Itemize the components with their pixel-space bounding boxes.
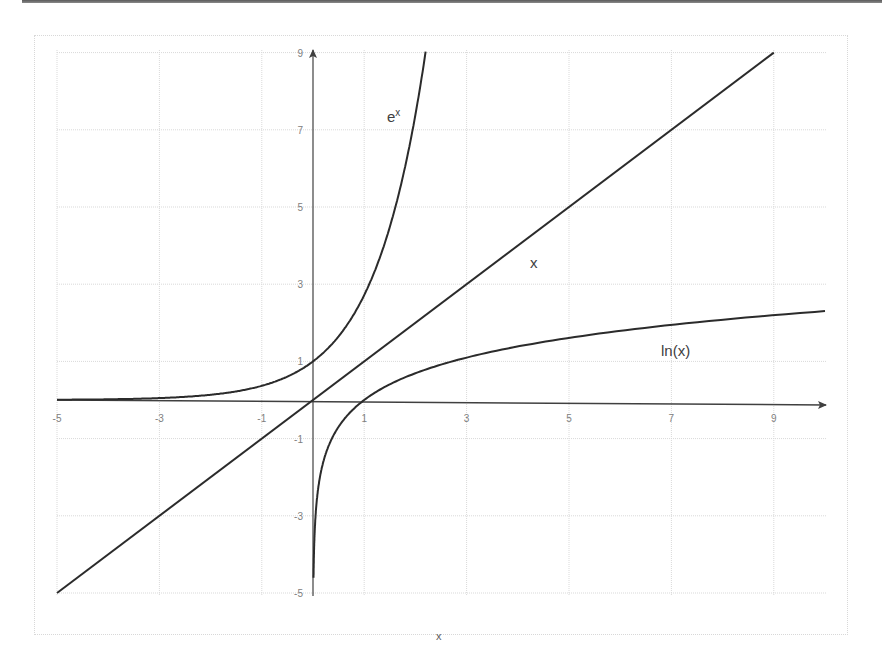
y-tick-label: 5 (297, 202, 303, 213)
y-tick-label: 7 (297, 125, 303, 136)
curves (57, 52, 825, 593)
x-axis (57, 400, 826, 405)
x-tick-label: -1 (257, 413, 266, 424)
x-tick-label: 1 (361, 413, 367, 424)
y-tick-label: -1 (294, 434, 303, 445)
x-tick-label: 9 (771, 413, 777, 424)
label-identity: x (530, 254, 538, 271)
curve-exp (57, 52, 426, 400)
y-tick-label: 3 (297, 279, 303, 290)
label-exp: ex (387, 107, 400, 125)
x-tick-label: 3 (464, 413, 470, 424)
x-axis-title: x (436, 630, 442, 642)
x-tick-label: -3 (155, 413, 164, 424)
label-ln: ln(x) (661, 342, 690, 359)
y-tick-label: -3 (294, 511, 303, 522)
y-tick-label: 1 (297, 356, 303, 367)
axes (57, 50, 826, 596)
x-tick-label: 7 (669, 413, 675, 424)
x-tick-label: 5 (566, 413, 572, 424)
curve-identity (57, 53, 774, 593)
curve-labels: ex x ln(x) x (387, 107, 690, 642)
x-tick-label: -5 (53, 413, 62, 424)
gridlines (57, 50, 826, 596)
function-plot: -5-3-11357997531-1-3-5 ex x ln(x) x (0, 0, 882, 669)
y-tick-label: 9 (297, 48, 303, 59)
y-tick-label: -5 (294, 588, 303, 599)
